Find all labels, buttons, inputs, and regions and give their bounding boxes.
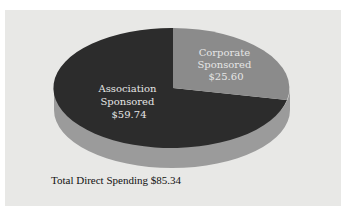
total-annotation: Total Direct Spending $85.34 (51, 174, 181, 186)
